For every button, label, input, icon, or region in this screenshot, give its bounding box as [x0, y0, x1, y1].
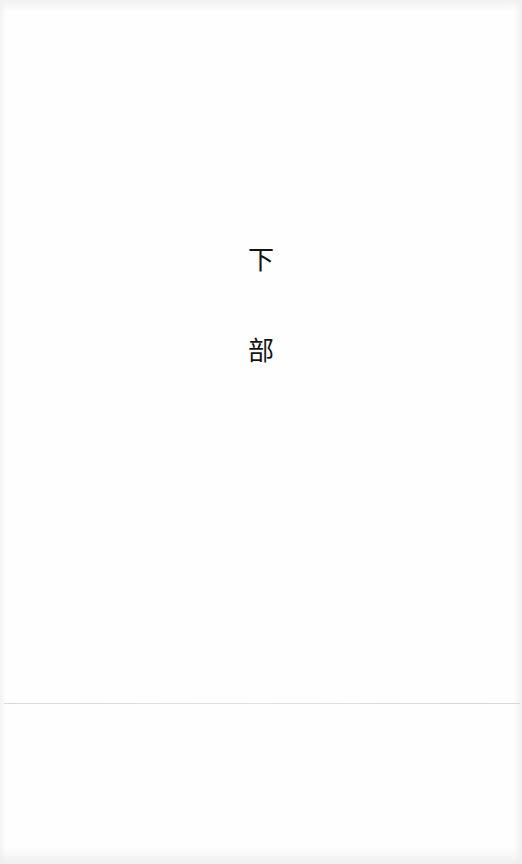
scan-edge-top	[0, 0, 522, 12]
scan-edge-right	[514, 0, 522, 864]
title-character-2: 部	[0, 338, 522, 364]
horizontal-rule	[4, 703, 520, 704]
scan-edge-left	[0, 0, 6, 864]
scan-edge-bottom	[0, 848, 522, 864]
document-page: 下 部	[0, 0, 522, 864]
title-character-1: 下	[0, 247, 522, 273]
